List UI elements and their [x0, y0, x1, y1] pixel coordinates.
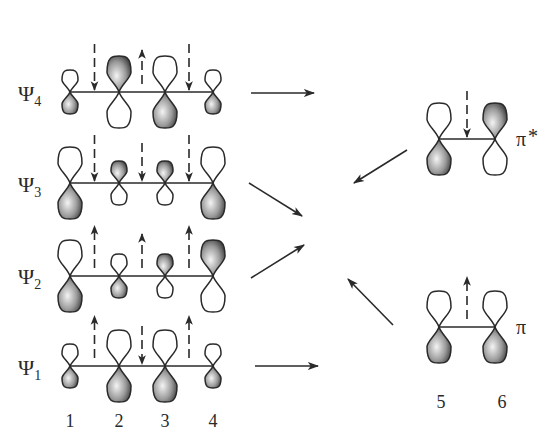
- orbital-psi2: [58, 226, 225, 312]
- shaded-lobe: [205, 92, 221, 114]
- open-lobe: [153, 56, 177, 92]
- label-psi2: Ψ2: [18, 264, 41, 292]
- arrow-psi3: [249, 183, 302, 216]
- shaded-lobe: [157, 254, 173, 276]
- arrow-psi2: [251, 245, 304, 278]
- open-lobe: [483, 291, 507, 327]
- diene-atom-numbers: 1 2 3 4: [66, 411, 218, 431]
- open-lobe: [427, 103, 451, 139]
- open-lobe: [58, 147, 82, 183]
- shaded-lobe: [201, 183, 225, 219]
- atom-number-3: 3: [161, 411, 170, 431]
- shaded-lobe: [205, 366, 221, 388]
- shaded-lobe: [483, 327, 507, 363]
- diene-labels: Ψ4 Ψ3 Ψ2 Ψ1: [18, 81, 41, 383]
- shaded-lobe: [153, 366, 177, 402]
- orbital-diagram: Ψ4 Ψ3 Ψ2 Ψ1 1 2 3 4 π* π 5 6: [0, 0, 557, 440]
- open-lobe: [205, 70, 221, 92]
- shaded-lobe: [427, 327, 451, 363]
- open-lobe: [483, 139, 507, 175]
- open-lobe: [201, 276, 225, 312]
- open-lobe: [427, 291, 451, 327]
- shaded-lobe: [157, 161, 173, 183]
- label-psi4: Ψ4: [18, 81, 41, 109]
- arrow-pi: [348, 279, 393, 325]
- orbital-pi-star: [427, 91, 507, 175]
- open-lobe: [62, 70, 78, 92]
- atom-number-1: 1: [66, 411, 75, 431]
- label-psi1: Ψ1: [18, 355, 41, 383]
- shaded-lobe: [107, 56, 131, 92]
- diene-orbitals: [58, 44, 225, 402]
- atom-number-2: 2: [115, 411, 124, 431]
- arrow-pi-star: [354, 150, 407, 183]
- atom-number-5: 5: [437, 392, 446, 412]
- shaded-lobe: [58, 183, 82, 219]
- atom-number-4: 4: [209, 411, 218, 431]
- shaded-lobe: [107, 366, 131, 402]
- shaded-lobe: [58, 276, 82, 312]
- open-lobe: [58, 240, 82, 276]
- open-lobe: [153, 330, 177, 366]
- shaded-lobe: [62, 366, 78, 388]
- shaded-lobe: [201, 240, 225, 276]
- shaded-lobe: [153, 92, 177, 128]
- orbital-psi3: [58, 135, 225, 219]
- open-lobe: [107, 330, 131, 366]
- orbital-psi1: [62, 316, 221, 402]
- orbital-psi4: [62, 44, 221, 128]
- alkene-orbitals: [427, 91, 507, 363]
- open-lobe: [205, 344, 221, 366]
- open-lobe: [107, 92, 131, 128]
- open-lobe: [111, 254, 127, 276]
- label-pi-star: π*: [516, 125, 538, 150]
- shaded-lobe: [111, 161, 127, 183]
- open-lobe: [157, 276, 173, 298]
- shaded-lobe: [483, 103, 507, 139]
- shaded-lobe: [62, 92, 78, 114]
- label-psi3: Ψ3: [18, 172, 41, 200]
- shaded-lobe: [427, 139, 451, 175]
- open-lobe: [157, 183, 173, 205]
- open-lobe: [111, 183, 127, 205]
- label-pi: π: [516, 316, 526, 338]
- alkene-atom-numbers: 5 6: [437, 392, 507, 412]
- shaded-lobe: [111, 276, 127, 298]
- atom-number-6: 6: [498, 392, 507, 412]
- alkene-labels: π* π: [516, 125, 538, 338]
- open-lobe: [62, 344, 78, 366]
- interaction-arrows: [249, 93, 407, 366]
- open-lobe: [201, 147, 225, 183]
- orbital-pi: [427, 277, 507, 363]
